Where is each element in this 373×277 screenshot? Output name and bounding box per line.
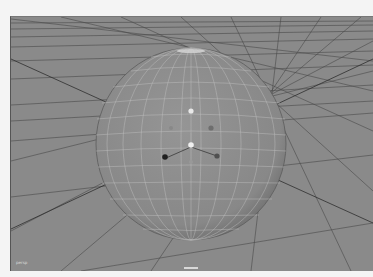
scene-render <box>11 17 373 271</box>
camera-name-label: persp <box>16 260 27 265</box>
3d-viewport[interactable]: persp <box>10 16 373 271</box>
view-indicator <box>184 267 198 269</box>
